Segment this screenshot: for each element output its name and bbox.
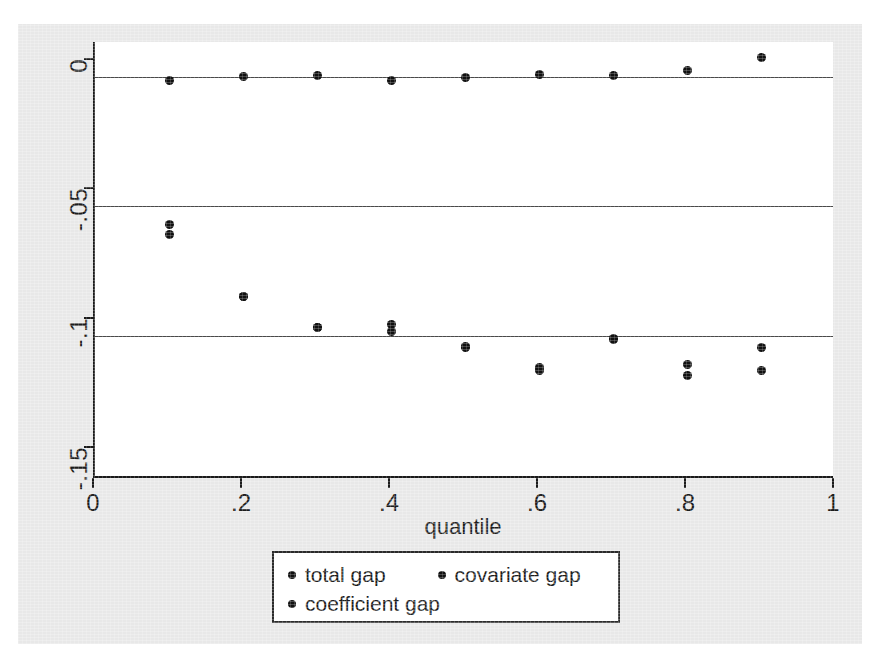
x-tick-mark (832, 478, 834, 488)
data-point (239, 292, 248, 301)
data-point (535, 70, 544, 79)
x-tick-mark (240, 478, 242, 488)
data-point (683, 66, 692, 75)
y-tick-label: 0 (65, 59, 93, 73)
data-point (387, 76, 396, 85)
data-point (609, 335, 618, 344)
x-tick-label: .4 (379, 489, 399, 517)
data-point (313, 71, 322, 80)
data-point (757, 343, 766, 352)
y-axis: 0-.05-.1-.15 (18, 24, 93, 460)
x-tick-label: .8 (675, 489, 695, 517)
data-point (609, 71, 618, 80)
data-point (387, 327, 396, 336)
x-axis-title: quantile (93, 514, 833, 540)
data-point (165, 220, 174, 229)
legend-entry-covariate-gap[interactable]: covariate gap (438, 563, 581, 587)
plot-canvas (95, 42, 833, 476)
gridline-y (95, 336, 833, 337)
gridline-y (95, 206, 833, 207)
y-tick-label: -.15 (65, 447, 93, 490)
y-tick-label: -.1 (65, 318, 93, 348)
data-point (683, 360, 692, 369)
legend-entry-total-gap[interactable]: total gap (288, 563, 386, 587)
x-tick-mark (684, 478, 686, 488)
plot-area (93, 42, 833, 478)
legend-marker-icon (288, 571, 296, 579)
data-point (461, 73, 470, 82)
legend-row-2: coefficient gap (274, 589, 618, 618)
x-tick-mark (92, 478, 94, 488)
x-tick-label: .2 (231, 489, 251, 517)
figure-panel: 0-.05-.1-.15 0.2.4.6.81 quantile total g… (18, 24, 862, 644)
data-point (165, 76, 174, 85)
data-point (239, 72, 248, 81)
data-point (683, 371, 692, 380)
legend-marker-icon (288, 600, 296, 608)
chart-legend: total gap covariate gap coefficient gap (272, 551, 620, 623)
legend-row-1: total gap covariate gap (274, 560, 618, 589)
x-tick-label: .6 (527, 489, 547, 517)
legend-marker-icon (438, 571, 446, 579)
data-point (313, 323, 322, 332)
legend-label: coefficient gap (305, 592, 440, 616)
x-tick-mark (388, 478, 390, 488)
legend-label: covariate gap (455, 563, 581, 587)
data-point (757, 366, 766, 375)
legend-label: total gap (305, 563, 386, 587)
x-tick-mark (536, 478, 538, 488)
x-tick-label: 1 (826, 489, 839, 517)
x-tick-label: 0 (86, 489, 99, 517)
data-point (461, 343, 470, 352)
data-point (535, 366, 544, 375)
y-tick-label: -.05 (65, 188, 93, 231)
legend-entry-coefficient-gap[interactable]: coefficient gap (288, 592, 440, 616)
data-point (757, 53, 766, 62)
data-point (165, 230, 174, 239)
